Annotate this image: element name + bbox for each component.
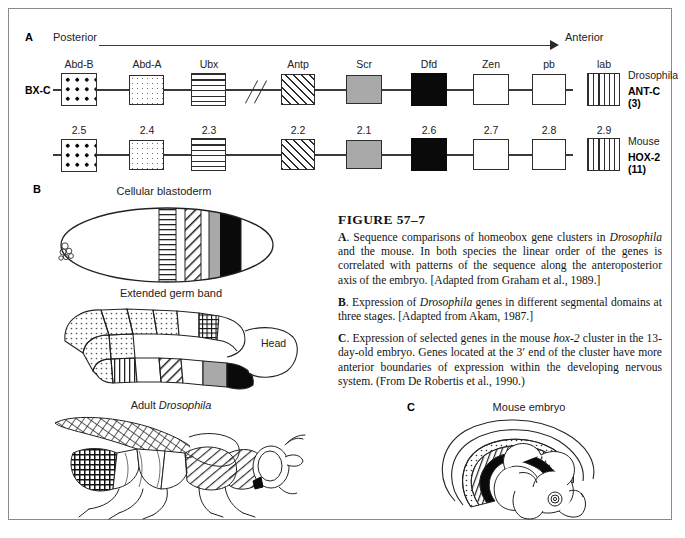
figure-caption: FIGURE 57–7 A. Sequence comparisons of h… [338,212,662,397]
species-label-mouse: Mouse [628,135,660,147]
axis-arrow-icon [550,40,559,50]
sequence-break-icon [242,79,272,105]
gene-label-2-8: 2.8 [519,124,579,136]
panel-b-letter: B [33,183,41,195]
gene-label-2-3: 2.3 [179,124,239,136]
gene-label-abd-a: Abd-A [117,58,177,70]
cluster-label-antc: ANT-C (3) [628,85,671,109]
gene-label-2-2: 2.2 [268,124,328,136]
gene-box-dfd[interactable] [411,73,447,106]
gene-label-2-4: 2.4 [117,124,177,136]
figure-number: FIGURE 57–7 [338,212,662,228]
stage-title-blastoderm: Cellular blastoderm [69,185,259,197]
gene-box-zen[interactable] [473,74,509,105]
gene-label-lab: lab [574,58,634,70]
gene-label-abd-b: Abd-B [49,58,109,70]
adult-drosophila-diagram [39,409,319,521]
species-label-drosophila: Drosophila [628,69,678,81]
caption-paragraph-c: C. Expression of selected genes in the m… [338,332,662,389]
axis-label-posterior: Posterior [53,31,97,43]
panel-a-letter: A [25,31,33,43]
germband-head-label: Head [261,337,286,349]
mouse-embryo-diagram [419,413,649,521]
gene-label-antp: Antp [268,58,328,70]
caption-paragraph-a: A. Sequence comparisons of homeobox gene… [338,231,662,288]
gene-label-ubx: Ubx [179,58,239,70]
extended-germ-band-diagram: Head [49,301,309,397]
gene-label-zen: Zen [461,58,521,70]
panel-c-letter: C [407,401,415,413]
gene-box-2-2[interactable] [281,139,315,170]
gene-box-2-3[interactable] [191,138,226,171]
gene-label-2-7: 2.7 [461,124,521,136]
cluster-label-hox2: HOX-2 (11) [628,151,671,175]
axis-label-anterior: Anterior [565,31,604,43]
gene-box-scr[interactable] [346,75,382,104]
figure-frame: A Posterior Anterior BX-C Abd-B Abd-A Ub… [8,8,672,520]
gene-box-abd-a[interactable] [129,75,164,105]
gene-box-abd-b[interactable] [61,73,97,106]
anteroposterior-axis [99,45,554,46]
gene-box-2-7[interactable] [473,139,509,170]
gene-box-lab[interactable] [587,73,620,106]
caption-label-b: B [338,296,346,309]
gene-box-2-4[interactable] [129,140,164,170]
gene-box-2-5[interactable] [61,139,97,172]
row-tag-bxc: BX-C [25,84,51,96]
gene-box-pb[interactable] [532,74,566,105]
gene-box-ubx[interactable] [191,73,226,106]
gene-label-pb: pb [519,58,579,70]
stage-title-germband: Extended germ band [71,287,271,299]
gene-box-2-1[interactable] [346,140,382,169]
gene-label-2-5: 2.5 [49,124,109,136]
caption-label-a: A [338,231,346,244]
gene-box-2-6[interactable] [411,138,447,171]
cellular-blastoderm-diagram [47,199,287,291]
caption-label-c: C [338,332,346,345]
gene-label-2-9: 2.9 [574,124,634,136]
gene-label-2-6: 2.6 [399,124,459,136]
gene-label-2-1: 2.1 [334,124,394,136]
gene-box-2-9[interactable] [587,138,620,171]
gene-box-antp[interactable] [281,74,315,105]
panel-c-title: Mouse embryo [449,401,609,413]
gene-label-scr: Scr [334,58,394,70]
gene-label-dfd: Dfd [399,58,459,70]
gene-box-2-8[interactable] [532,139,566,170]
caption-paragraph-b: B. Expression of Drosophila genes in dif… [338,296,662,324]
